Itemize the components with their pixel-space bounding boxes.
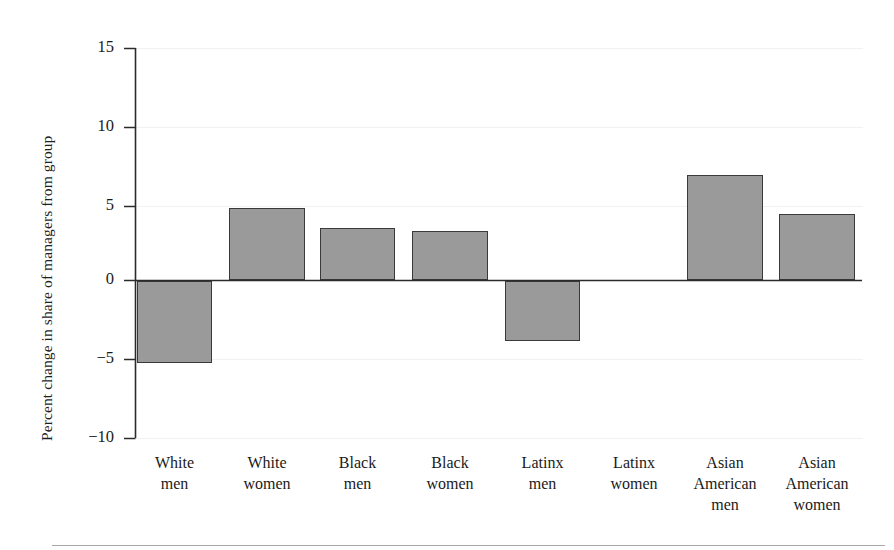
xtick-line: women bbox=[408, 473, 492, 494]
ytick-label-minus5: −5 bbox=[68, 350, 114, 367]
y-axis-title: Percent change in share of managers from… bbox=[38, 136, 56, 441]
xtick-label-black-men: Black men bbox=[320, 452, 395, 494]
xtick-label-asian-american-women: Asian American women bbox=[771, 452, 863, 515]
ytick-label-10: 10 bbox=[68, 118, 114, 135]
xtick-line: women bbox=[592, 473, 676, 494]
xtick-line: Black bbox=[320, 452, 395, 473]
xtick-line: men bbox=[137, 473, 212, 494]
xtick-line: women bbox=[771, 494, 863, 515]
ytick-label-5: 5 bbox=[68, 197, 114, 214]
xtick-line: women bbox=[225, 473, 309, 494]
xtick-line: Asian bbox=[679, 452, 771, 473]
xtick-line: White bbox=[225, 452, 309, 473]
xtick-line: men bbox=[505, 473, 580, 494]
xtick-label-latinx-women: Latinx women bbox=[592, 452, 676, 494]
xtick-line: Latinx bbox=[505, 452, 580, 473]
xtick-line: American bbox=[771, 473, 863, 494]
xtick-label-black-women: Black women bbox=[408, 452, 492, 494]
xtick-label-latinx-men: Latinx men bbox=[505, 452, 580, 494]
xtick-line: men bbox=[679, 494, 771, 515]
xtick-label-asian-american-men: Asian American men bbox=[679, 452, 771, 515]
xtick-label-white-women: White women bbox=[225, 452, 309, 494]
bar-chart-figure: 15 10 5 0 −5 −10 Percent change in share… bbox=[0, 0, 894, 550]
ytick-label-15: 15 bbox=[68, 39, 114, 56]
footer-rule bbox=[52, 545, 885, 546]
xtick-line: men bbox=[320, 473, 395, 494]
xtick-line: American bbox=[679, 473, 771, 494]
xtick-line: Black bbox=[408, 452, 492, 473]
xtick-label-white-men: White men bbox=[137, 452, 212, 494]
xtick-line: White bbox=[137, 452, 212, 473]
xtick-line: Latinx bbox=[592, 452, 676, 473]
ytick-label-0: 0 bbox=[68, 271, 114, 288]
ytick-label-minus10: −10 bbox=[68, 429, 114, 446]
xtick-line: Asian bbox=[771, 452, 863, 473]
